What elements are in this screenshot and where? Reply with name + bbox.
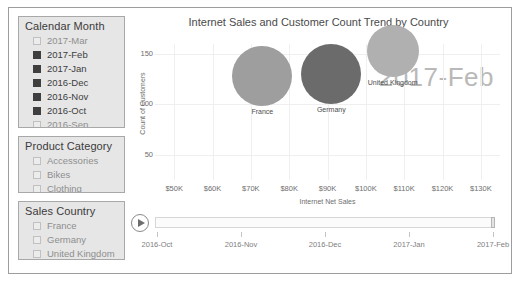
x-tick-label: $130K	[470, 184, 492, 193]
slicer-item-2016-oct[interactable]: 2016-Oct	[33, 104, 124, 117]
timeline-tick-mark	[157, 232, 158, 237]
gridline-vertical	[213, 44, 214, 180]
checkbox-icon[interactable]	[33, 171, 41, 179]
slicer-item-france[interactable]: France	[33, 219, 124, 232]
timeline-tick-mark	[493, 232, 494, 237]
slicer-item-label: 2017-Mar	[47, 35, 88, 46]
slicer-title-product-category: Product Category	[19, 137, 124, 154]
slicer-item-accessories[interactable]: Accessories	[33, 154, 124, 167]
timeline-slider-handle[interactable]	[491, 217, 495, 228]
slicer-item-label: Bikes	[47, 169, 70, 180]
bubble-label: Germany	[291, 106, 371, 113]
gridline-vertical	[481, 44, 482, 180]
checkbox-icon[interactable]	[33, 37, 41, 45]
slicer-item-2017-jan[interactable]: 2017-Jan	[33, 62, 124, 75]
checkbox-checked-icon[interactable]	[33, 65, 41, 73]
checkbox-checked-icon[interactable]	[33, 107, 41, 115]
slicer-item-label: Accessories	[47, 155, 98, 166]
timeline-tick-mark	[241, 232, 242, 237]
play-triangle-icon	[138, 219, 145, 227]
y-axis-ticks: 15010050	[131, 44, 153, 180]
scatter-chart-visual[interactable]: Internet Sales and Customer Count Trend …	[129, 12, 508, 267]
timeline-tick-mark	[325, 232, 326, 237]
timeline-tick-label[interactable]: 2016-Oct	[142, 240, 173, 249]
slicer-item-2016-sep[interactable]: 2016-Sep	[33, 118, 124, 128]
checkbox-checked-icon[interactable]	[33, 121, 41, 129]
slicer-item-label: 2016-Dec	[47, 77, 88, 88]
checkbox-icon[interactable]	[33, 250, 41, 258]
bubble-label: France	[222, 108, 302, 115]
chart-title: Internet Sales and Customer Count Trend …	[129, 16, 508, 28]
x-tick-label: $90K	[319, 184, 337, 193]
plot-area[interactable]: 2017-Feb FranceGermanyUnited Kingdom	[155, 44, 500, 180]
slicer-item-label: Clothing	[47, 183, 82, 193]
bubble-germany[interactable]	[301, 44, 361, 104]
slicer-item-label: United Kingdom	[47, 248, 115, 259]
slicer-item-label: Germany	[47, 234, 86, 245]
x-axis-ticks: $50K$60K$70K$80K$90K$100K$110K$120K$130K	[155, 184, 500, 196]
checkbox-icon[interactable]	[33, 222, 41, 230]
x-tick-label: $60K	[204, 184, 222, 193]
slicer-product-category[interactable]: Product Category Accessories Bikes Cloth…	[18, 136, 125, 193]
bubble-united-kingdom[interactable]	[367, 25, 419, 77]
slicer-item-label: France	[47, 220, 77, 231]
slicer-item-2017-feb[interactable]: 2017-Feb	[33, 48, 124, 61]
bubble-france[interactable]	[232, 46, 292, 106]
checkbox-checked-icon[interactable]	[33, 51, 41, 59]
x-tick-label: $100K	[355, 184, 377, 193]
slicer-item-label: 2017-Jan	[47, 63, 87, 74]
play-button[interactable]	[131, 214, 149, 232]
gridline-horizontal	[155, 155, 500, 156]
slicer-item-label: 2017-Feb	[47, 49, 88, 60]
slicer-item-2016-nov[interactable]: 2016-Nov	[33, 90, 124, 103]
timeline-slider-track[interactable]	[155, 217, 495, 228]
y-tick-label: 150	[140, 49, 153, 58]
y-tick-label: 100	[140, 99, 153, 108]
slicer-item-united-kingdom[interactable]: United Kingdom	[33, 247, 124, 260]
play-axis[interactable]: 2016-Oct2016-Nov2016-Dec2017-Jan2017-Feb	[129, 212, 508, 264]
slicer-item-label: 2016-Nov	[47, 91, 88, 102]
gridline-vertical	[443, 44, 444, 180]
x-tick-label: $70K	[242, 184, 260, 193]
slicer-sales-country[interactable]: Sales Country France Germany United King…	[18, 201, 125, 260]
checkbox-checked-icon[interactable]	[33, 93, 41, 101]
slicer-list-calendar-month: 2017-Mar 2017-Feb 2017-Jan 2016-Dec 2016…	[19, 34, 124, 128]
checkbox-icon[interactable]	[33, 157, 41, 165]
timeline-tick-mark	[409, 232, 410, 237]
slicer-item-germany[interactable]: Germany	[33, 233, 124, 246]
slicer-item-clothing[interactable]: Clothing	[33, 182, 124, 193]
timeline-tick-label[interactable]: 2016-Nov	[225, 240, 258, 249]
slicer-item-label: 2016-Oct	[47, 105, 86, 116]
timeline-tick-label[interactable]: 2017-Feb	[477, 240, 509, 249]
slicer-list-product-category: Accessories Bikes Clothing	[19, 154, 124, 193]
report-canvas: Calendar Month 2017-Mar 2017-Feb 2017-Ja…	[8, 7, 512, 274]
timeline-tick-label[interactable]: 2016-Dec	[309, 240, 342, 249]
x-tick-label: $120K	[432, 184, 454, 193]
timeline-tick-label[interactable]: 2017-Jan	[393, 240, 424, 249]
slicer-item-bikes[interactable]: Bikes	[33, 168, 124, 181]
gridline-vertical	[174, 44, 175, 180]
x-axis-title: Internet Net Sales	[155, 198, 500, 205]
slicer-calendar-month[interactable]: Calendar Month 2017-Mar 2017-Feb 2017-Ja…	[18, 16, 125, 128]
checkbox-icon[interactable]	[33, 236, 41, 244]
x-tick-label: $110K	[394, 184, 415, 193]
slicer-item-label: 2016-Sep	[47, 119, 88, 128]
slicer-title-calendar-month: Calendar Month	[19, 17, 124, 34]
slicer-item-2017-mar[interactable]: 2017-Mar	[33, 34, 124, 47]
x-tick-label: $80K	[280, 184, 298, 193]
checkbox-icon[interactable]	[33, 185, 41, 193]
slicer-list-sales-country: France Germany United Kingdom	[19, 219, 124, 260]
slicer-title-sales-country: Sales Country	[19, 202, 124, 219]
y-tick-label: 50	[145, 150, 153, 159]
slicer-item-2016-dec[interactable]: 2016-Dec	[33, 76, 124, 89]
x-tick-label: $50K	[165, 184, 183, 193]
bubble-label: United Kingdom	[353, 79, 433, 86]
checkbox-checked-icon[interactable]	[33, 79, 41, 87]
